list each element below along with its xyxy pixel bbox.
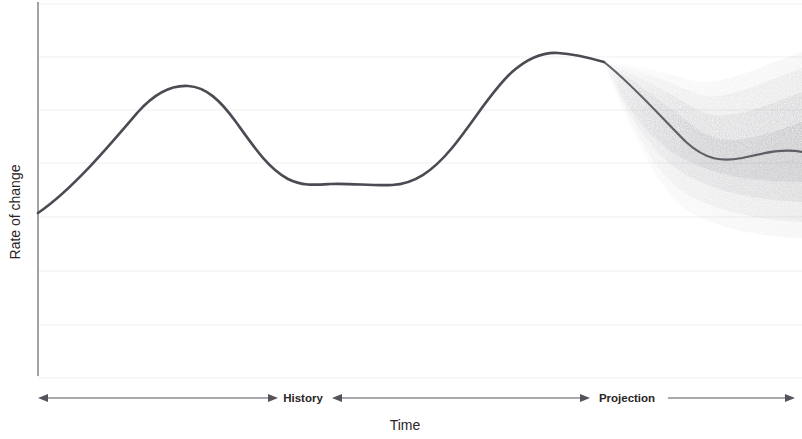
chart-background [0,0,802,439]
history-label: History [283,392,323,404]
projection-label: Projection [599,392,655,404]
x-axis-title: Time [390,417,421,433]
y-axis-title: Rate of change [7,164,23,259]
rate-of-change-projection-chart: Rate of change History Projection Time [0,0,802,439]
